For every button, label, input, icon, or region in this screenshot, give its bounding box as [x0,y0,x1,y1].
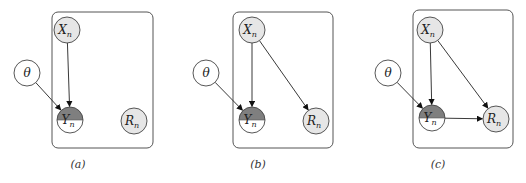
node-label: θ [384,66,392,80]
edge-theta-to-y [397,82,422,108]
panel-b: θXnYnRn(b) [193,12,333,171]
edge-x-to-r [259,41,308,110]
node-x: Xn [54,17,80,43]
edge-x-to-r [438,40,488,108]
node-theta: θ [375,60,401,86]
node-r: Rn [483,106,509,132]
edge-x-to-y [67,43,69,107]
panel-caption: (b) [250,158,266,171]
edge-y-to-r [445,118,483,119]
node-x: Xn [417,17,443,43]
node-y: Yn [57,107,83,133]
node-r: Rn [121,108,147,134]
panel-a: θXnYnRn(a) [14,12,153,171]
edge-x-to-y [430,43,431,105]
node-theta: θ [193,60,219,86]
panel-caption: (a) [70,158,85,171]
node-y: Yn [239,107,265,133]
node-label: θ [23,66,31,80]
node-y: Yn [419,105,445,131]
node-r: Rn [303,108,329,134]
panel-caption: (c) [431,158,446,171]
edge-theta-to-y [215,82,242,110]
graphical-models-figure: θXnYnRn(a)θXnYnRn(b)θXnYnRn(c) [0,0,526,183]
node-label: θ [202,66,210,80]
panel-c: θXnYnRn(c) [375,10,513,171]
edge-theta-to-y [36,83,61,110]
node-x: Xn [239,17,265,43]
node-theta: θ [14,60,40,86]
